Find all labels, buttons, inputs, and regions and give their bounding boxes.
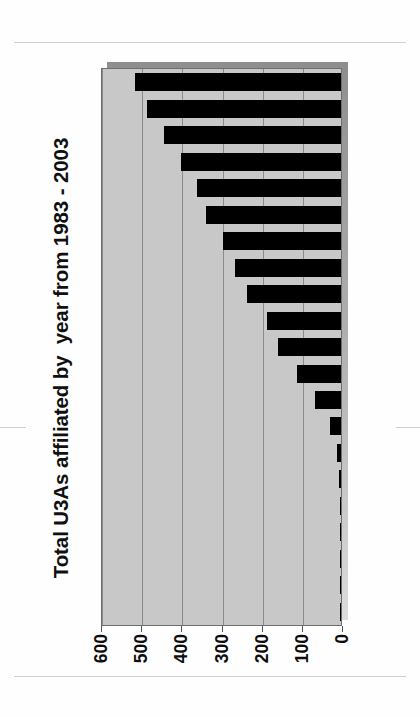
axis-tick-mark: [181, 626, 182, 632]
bar: [330, 418, 341, 436]
bar: [297, 365, 341, 383]
bar-slot: [102, 360, 341, 386]
bar-slot: [102, 175, 341, 201]
bar: [340, 497, 342, 515]
bar-slot: [102, 228, 341, 254]
bar: [235, 259, 341, 277]
plot-area: [101, 68, 342, 626]
bar-slot: [102, 96, 341, 122]
axis-tick-mark: [101, 626, 102, 632]
plot-outer: [101, 68, 342, 626]
axis-tick-label: 0: [332, 634, 353, 674]
bar-chart-figure: Total U3As affiliated by year from 1983 …: [45, 48, 375, 668]
bar-slot: [102, 440, 341, 466]
bar-slot: [102, 519, 341, 545]
axis-tick-label: 100: [291, 634, 312, 674]
axis-tick-mark: [302, 626, 303, 632]
axis-tick-label: 300: [211, 634, 232, 674]
bar-slot: [102, 493, 341, 519]
bar-slot: [102, 334, 341, 360]
bar: [223, 232, 341, 250]
bar: [339, 470, 341, 488]
bar: [278, 338, 341, 356]
bar-slot: [102, 387, 341, 413]
bar: [247, 285, 341, 303]
bar-slot: [102, 254, 341, 280]
bar-slot: [102, 202, 341, 228]
axis-tick-mark: [222, 626, 223, 632]
bar: [197, 179, 341, 197]
bar-slot: [102, 69, 341, 95]
bar-slot: [102, 599, 341, 625]
bar-slot: [102, 413, 341, 439]
axis-tick-label: 200: [251, 634, 272, 674]
bar: [206, 206, 341, 224]
bar: [340, 603, 342, 621]
bar-slot: [102, 122, 341, 148]
chart-title: Total U3As affiliated by year from 1983 …: [49, 48, 73, 668]
bar: [164, 126, 341, 144]
axis-tick-mark: [141, 626, 142, 632]
axis-tick-mark: [262, 626, 263, 632]
bar: [267, 312, 341, 330]
bar-slot: [102, 149, 341, 175]
bar: [181, 153, 341, 171]
axis-tick-label: 600: [91, 634, 112, 674]
axis-tick-label: 400: [171, 634, 192, 674]
bar-slot: [102, 546, 341, 572]
bar: [135, 73, 341, 91]
bar: [340, 550, 342, 568]
bar: [337, 444, 341, 462]
bars-group: [102, 69, 341, 625]
bar-slot: [102, 466, 341, 492]
rotated-figure-wrapper: Total U3As affiliated by year from 1983 …: [0, 0, 420, 717]
bar-slot: [102, 307, 341, 333]
bar: [315, 391, 341, 409]
bar-slot: [102, 281, 341, 307]
axis-tick-label: 500: [131, 634, 152, 674]
axis-tick-mark: [342, 626, 343, 632]
bar: [147, 100, 341, 118]
bar: [340, 576, 342, 594]
bar-slot: [102, 572, 341, 598]
page-canvas: Total U3As affiliated by year from 1983 …: [0, 0, 420, 717]
bar: [340, 523, 342, 541]
